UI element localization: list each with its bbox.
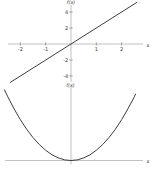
y-tick-label: 2 (65, 25, 68, 31)
y-tick-label: 4 (65, 9, 68, 15)
top-plot-curve (10, 2, 137, 82)
y-axis-label: f(x) (67, 0, 76, 5)
bottom-plot-curve (5, 90, 136, 161)
x-tick-label: 2 (120, 46, 123, 52)
figure: -2-112-4-224xf(x)xf(x) (0, 0, 151, 176)
y-tick-label: -4 (63, 73, 68, 79)
function-plots: -2-112-4-224xf(x)xf(x) (0, 0, 151, 176)
x-axis-label: x (146, 158, 150, 164)
y-tick-label: -2 (63, 57, 68, 63)
x-tick-label: 1 (95, 46, 98, 52)
bottom-plot: xf(x) (5, 82, 150, 165)
x-tick-label: -1 (43, 46, 48, 52)
y-axis-label: f(x) (66, 82, 75, 88)
x-tick-label: -2 (18, 46, 23, 52)
x-axis-label: x (146, 42, 150, 48)
top-plot: -2-112-4-224xf(x) (8, 0, 150, 82)
